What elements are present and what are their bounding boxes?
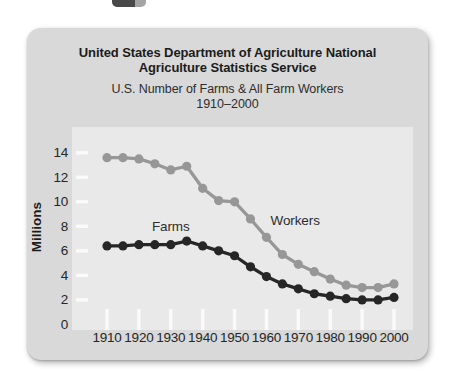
- data-point-workers: [358, 283, 367, 292]
- chart-header: United States Department of Agriculture …: [27, 45, 428, 112]
- chart-card: 0246810121419101920193019401950196019701…: [27, 28, 428, 360]
- data-point-farms: [358, 295, 367, 304]
- y-tick-label: 14: [53, 145, 68, 160]
- y-axis-title: Millions: [29, 202, 44, 252]
- y-tick-label: 10: [53, 194, 68, 209]
- data-point-farms: [214, 246, 223, 255]
- data-point-workers: [278, 250, 287, 259]
- data-point-workers: [294, 260, 303, 269]
- data-point-workers: [246, 214, 255, 223]
- data-point-farms: [326, 292, 335, 301]
- y-axis-tick: [76, 176, 88, 179]
- series-label-workers: Workers: [270, 213, 320, 228]
- data-point-farms: [150, 240, 159, 249]
- x-axis-tick: [233, 309, 236, 330]
- x-tick-label: 1980: [316, 330, 345, 345]
- page-background: 0246810121419101920193019401950196019701…: [0, 0, 455, 386]
- data-point-workers: [198, 184, 207, 193]
- x-axis-tick: [392, 309, 395, 330]
- data-point-farms: [102, 241, 111, 250]
- x-axis-tick: [201, 309, 204, 330]
- chart-subtitle: U.S. Number of Farms & All Farm Workers: [27, 82, 428, 97]
- y-axis-tick: [76, 298, 88, 301]
- data-point-farms: [294, 284, 303, 293]
- data-point-farms: [246, 262, 255, 271]
- x-tick-label: 1970: [284, 330, 313, 345]
- data-point-farms: [230, 251, 239, 260]
- x-axis-tick: [360, 309, 363, 330]
- x-axis-tick: [137, 309, 140, 330]
- y-axis-tick: [76, 225, 88, 228]
- data-point-farms: [278, 279, 287, 288]
- x-tick-label: 1930: [156, 330, 185, 345]
- data-point-workers: [310, 267, 319, 276]
- y-axis-tick: [76, 274, 88, 277]
- data-point-farms: [262, 272, 271, 281]
- data-point-workers: [214, 196, 223, 205]
- data-point-farms: [118, 241, 127, 250]
- y-tick-label: 12: [53, 170, 68, 185]
- screenshot-edge-artifact: [112, 0, 146, 7]
- data-point-workers: [182, 162, 191, 171]
- x-tick-label: 1960: [252, 330, 281, 345]
- data-point-farms: [373, 295, 382, 304]
- y-axis-tick: [76, 249, 88, 252]
- x-tick-label: 1950: [220, 330, 249, 345]
- y-tick-label: 0: [61, 317, 68, 332]
- chart-title: United States Department of Agriculture …: [58, 45, 398, 75]
- y-tick-label: 8: [61, 219, 68, 234]
- x-axis-tick: [105, 309, 108, 330]
- data-point-workers: [150, 159, 159, 168]
- y-axis-tick: [76, 151, 88, 154]
- data-point-farms: [389, 293, 398, 302]
- x-tick-label: 1940: [188, 330, 217, 345]
- x-axis-tick: [169, 309, 172, 330]
- data-point-farms: [342, 294, 351, 303]
- y-tick-label: 4: [61, 268, 69, 283]
- data-point-farms: [310, 289, 319, 298]
- x-axis-tick: [297, 309, 300, 330]
- data-point-workers: [326, 274, 335, 283]
- data-point-workers: [389, 279, 398, 288]
- data-point-workers: [262, 233, 271, 242]
- x-tick-label: 2000: [379, 330, 408, 345]
- data-point-workers: [118, 153, 127, 162]
- data-point-workers: [134, 154, 143, 163]
- y-axis-tick: [76, 200, 88, 203]
- data-point-workers: [342, 281, 351, 290]
- data-point-workers: [230, 197, 239, 206]
- x-tick-label: 1910: [92, 330, 121, 345]
- data-point-workers: [373, 283, 382, 292]
- data-point-workers: [166, 165, 175, 174]
- data-point-farms: [134, 240, 143, 249]
- x-axis-tick: [329, 309, 332, 330]
- chart-subtitle-range: 1910–2000: [27, 97, 428, 112]
- x-tick-label: 1920: [124, 330, 153, 345]
- data-point-farms: [198, 241, 207, 250]
- x-tick-label: 1990: [347, 330, 376, 345]
- data-point-farms: [166, 240, 175, 249]
- y-tick-label: 6: [61, 243, 68, 258]
- data-point-workers: [102, 153, 111, 162]
- data-point-farms: [182, 236, 191, 245]
- series-label-farms: Farms: [152, 219, 190, 234]
- x-axis-tick: [265, 309, 268, 330]
- y-tick-label: 2: [61, 292, 68, 307]
